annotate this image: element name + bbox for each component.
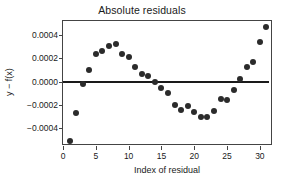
- x-axis-tick: [194, 146, 195, 150]
- plot-area: 0510152025300.00040.00020.0000−0.0002−0.…: [62, 20, 272, 145]
- data-point: [93, 51, 99, 57]
- data-point: [211, 108, 217, 114]
- data-point: [257, 39, 263, 45]
- data-point: [185, 103, 191, 109]
- x-axis-tick-label: 25: [222, 151, 231, 161]
- y-axis-tick-label: −0.0002: [27, 100, 58, 110]
- y-axis-tick: [59, 58, 63, 59]
- data-point: [132, 64, 138, 70]
- data-point: [244, 64, 250, 70]
- data-point: [99, 48, 105, 54]
- x-axis-tick-label: 5: [93, 151, 98, 161]
- y-axis-label-wrapper: y − f(x): [10, 0, 11, 165]
- y-axis-tick-label: 0.0002: [32, 53, 58, 63]
- x-axis-tick: [227, 146, 228, 150]
- data-point: [191, 109, 197, 115]
- chart-title: Absolute residuals: [0, 4, 284, 16]
- x-axis-tick-label: 30: [255, 151, 264, 161]
- data-point: [263, 24, 269, 30]
- x-axis-tick-label: 15: [157, 151, 166, 161]
- x-axis-tick: [63, 146, 64, 150]
- data-point: [119, 51, 125, 57]
- data-point: [86, 67, 92, 73]
- data-point: [152, 79, 158, 85]
- y-axis-tick-label: 0.0004: [32, 30, 58, 40]
- x-axis-tick: [260, 146, 261, 150]
- data-point: [218, 96, 224, 102]
- data-point: [145, 73, 151, 79]
- data-point: [139, 71, 145, 77]
- data-point: [172, 102, 178, 108]
- y-axis-tick: [59, 105, 63, 106]
- data-point: [165, 90, 171, 96]
- data-point: [250, 59, 256, 65]
- residual-scatter-chart: Absolute residuals y − f(x) 051015202530…: [0, 0, 284, 185]
- x-axis-tick-label: 10: [124, 151, 133, 161]
- x-axis-tick-label: 0: [61, 151, 66, 161]
- data-point: [80, 81, 86, 87]
- plot-inner: [63, 21, 271, 144]
- data-point: [204, 114, 210, 120]
- x-axis-tick: [129, 146, 130, 150]
- data-point: [126, 54, 132, 60]
- x-axis-label: Index of residual: [62, 165, 272, 175]
- data-point: [106, 43, 112, 49]
- data-point: [198, 114, 204, 120]
- y-axis-tick-label: 0.0000: [32, 77, 58, 87]
- y-axis-label: y − f(x): [4, 68, 14, 96]
- x-axis-tick: [96, 146, 97, 150]
- y-axis-tick: [59, 82, 63, 83]
- y-axis-tick: [59, 128, 63, 129]
- data-point: [178, 107, 184, 113]
- y-axis-tick-label: −0.0004: [27, 123, 58, 133]
- x-axis-tick-label: 20: [190, 151, 199, 161]
- x-axis-tick: [161, 146, 162, 150]
- data-point: [67, 138, 73, 144]
- data-point: [224, 97, 230, 103]
- data-point: [158, 85, 164, 91]
- y-axis-tick: [59, 35, 63, 36]
- data-point: [113, 41, 119, 47]
- data-point: [231, 87, 237, 93]
- data-point: [73, 110, 79, 116]
